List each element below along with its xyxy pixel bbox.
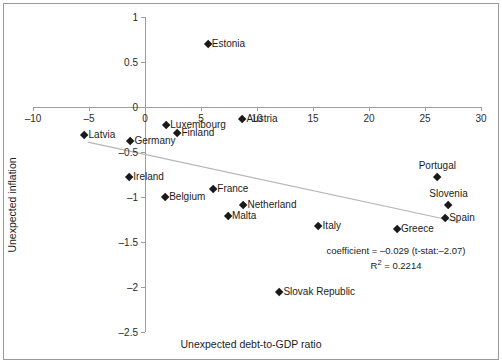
data-point-label: Malta [232,210,256,221]
r-squared-prefix: R [371,260,378,271]
x-tick-label-1: –5 [83,113,94,124]
data-point-label: Italy [323,220,341,231]
data-point-label: Slovak Republic [283,286,355,297]
y-tick-label-6: –2 [127,282,138,293]
y-tick-label-4: –1 [127,192,138,203]
x-tick-label-6: 20 [363,113,374,124]
x-tick-label-2: 0 [142,113,148,124]
coefficient-text: coefficient = –0.029 (t-stat:–2.07) [327,245,466,257]
data-point-label: France [217,183,248,194]
data-point-label: Austria [246,113,277,124]
data-point-label: Germany [134,135,175,146]
data-point-label: Netherland [248,199,297,210]
data-point-label: Greece [401,223,434,234]
y-tick-label-0: 1 [132,12,138,23]
y-tick-label-7: –2.5 [119,327,138,338]
y-tick-label-2: 0 [132,102,138,113]
diamond-marker[interactable] [433,173,442,182]
x-tick-label-5: 15 [307,113,318,124]
r-squared-text: R2 = 0.2214 [327,257,466,272]
regression-annotation: coefficient = –0.029 (t-stat:–2.07) R2 =… [327,245,466,272]
data-point-label: Estonia [212,38,245,49]
x-tick-label-0: –10 [25,113,42,124]
x-axis-title: Unexpected debt-to-GDP ratio [180,338,321,350]
data-point-label: Finland [181,127,214,138]
r-squared-value: = 0.2214 [382,260,422,271]
y-axis-title: Unexpected inflation [6,157,18,252]
scatter-chart-figure: –10–505101520253010.50–0.5–1–1.5–2–2.5Es… [0,0,502,363]
diamond-marker[interactable] [444,201,453,210]
data-point-label: Belgium [169,191,205,202]
plot-area: –10–505101520253010.50–0.5–1–1.5–2–2.5Es… [0,0,502,363]
x-tick-label-7: 25 [419,113,430,124]
x-tick-label-8: 30 [475,113,486,124]
data-point-label: Slovenia [429,188,467,199]
data-point-label: Ireland [133,171,164,182]
data-point-label: Latvia [89,129,116,140]
y-tick-label-3: –0.5 [119,147,138,158]
y-tick-label-1: 0.5 [124,57,138,68]
data-point-label: Spain [449,212,475,223]
data-point-label: Portugal [419,160,456,171]
y-tick-label-5: –1.5 [119,237,138,248]
